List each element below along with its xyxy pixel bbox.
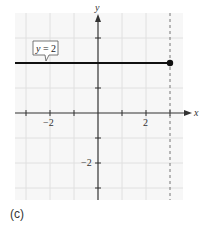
svg-text:y = 2: y = 2 xyxy=(35,43,56,54)
x-tick-label-2: 2 xyxy=(143,117,148,128)
x-axis-arrow-icon xyxy=(184,110,192,116)
figure-caption: (c) xyxy=(10,207,24,221)
graph: x y −2 2 −2 y = 2 xyxy=(0,0,208,215)
x-tick-label-neg2: −2 xyxy=(43,117,54,128)
y-axis-label: y xyxy=(94,2,100,13)
endpoint-dot xyxy=(167,60,173,66)
y-tick-label-neg2: −2 xyxy=(81,157,92,168)
x-axis-label: x xyxy=(193,107,199,118)
